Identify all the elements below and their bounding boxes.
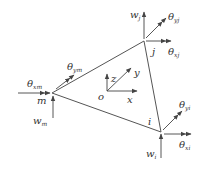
theta-xj-label: θxj xyxy=(168,46,179,59)
theta-yj-arrow xyxy=(146,18,166,38)
w-i-label: wi xyxy=(146,148,157,160)
triangle-element xyxy=(52,41,161,132)
theta-xi-label: θxi xyxy=(179,139,190,151)
node-i-label: i xyxy=(148,116,151,127)
theta-ym-label: θym xyxy=(67,61,82,74)
theta-yi-arrow xyxy=(163,111,182,130)
x-axis-label: x xyxy=(127,94,133,105)
theta-yi-label: θyi xyxy=(179,99,190,112)
w-m-label: wm xyxy=(33,115,48,127)
theta-xm-label: θxm xyxy=(27,78,42,90)
node-j-label: j xyxy=(150,46,155,57)
w-j-label: wj xyxy=(130,9,141,22)
coordinate-axes: o z y x xyxy=(98,67,140,105)
edge-m-j xyxy=(52,41,144,93)
theta-yj-label: θyj xyxy=(168,11,179,24)
node-m: m θxm θym wm xyxy=(18,61,82,127)
y-axis-label: y xyxy=(133,67,140,78)
origin-label: o xyxy=(98,91,104,102)
node-j: j wj θyj θxj xyxy=(130,9,179,59)
node-m-label: m xyxy=(37,95,46,106)
triangular-plate-element-diagram: o z y x m θxm θym wm j wj θyj θxj i wi θ… xyxy=(0,0,203,171)
edge-i-m xyxy=(52,93,161,132)
z-axis-label: z xyxy=(110,73,117,84)
